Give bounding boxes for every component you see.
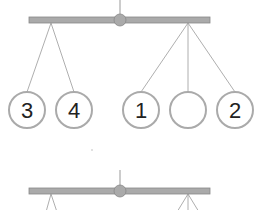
speck [91, 149, 93, 151]
weight-circle-3: 3 [9, 92, 45, 128]
string [51, 194, 57, 210]
string [141, 23, 188, 92]
svg-text:3: 3 [21, 98, 33, 123]
weight-circle-2: 2 [217, 92, 253, 128]
string [51, 23, 74, 92]
weight-circle-1: 1 [123, 92, 159, 128]
string [188, 23, 235, 92]
svg-text:1: 1 [135, 98, 147, 123]
string [188, 194, 199, 210]
bottom-mobile [29, 170, 210, 210]
string [27, 23, 51, 92]
bottom-pivot [114, 185, 126, 197]
weight-circle-4: 4 [56, 92, 92, 128]
top-pivot [114, 14, 126, 26]
weight-circle-blank [170, 92, 206, 128]
string [177, 194, 188, 210]
svg-text:2: 2 [229, 98, 241, 123]
balance-diagram: 3 4 1 2 [0, 0, 262, 210]
svg-text:4: 4 [68, 98, 80, 123]
string [46, 194, 51, 210]
top-mobile: 3 4 1 2 [9, 0, 253, 128]
